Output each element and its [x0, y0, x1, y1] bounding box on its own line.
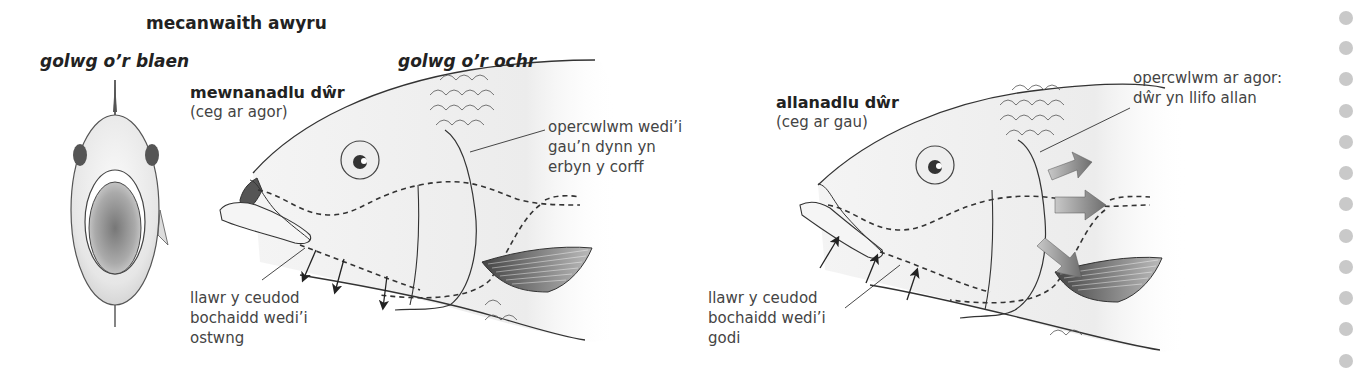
side-dots-column — [1337, 0, 1357, 377]
inhale-subheading: (ceg ar agor) — [190, 103, 288, 121]
side-dot — [1339, 291, 1353, 305]
exhale-operculum-label: opercwlwm ar agor: dŵr yn llifo allan — [1133, 68, 1282, 108]
side-dot — [1339, 322, 1353, 336]
side-dot — [1339, 135, 1353, 149]
side-view-label: golwg o’r ochr — [398, 51, 536, 71]
exhale-subheading: (ceg ar gau) — [776, 113, 868, 131]
side-dot — [1339, 11, 1353, 25]
side-dot — [1339, 260, 1353, 274]
front-view-label: golwg o’r blaen — [40, 51, 189, 71]
side-dot — [1339, 166, 1353, 180]
side-dot — [1339, 197, 1353, 211]
side-dot — [1339, 41, 1353, 55]
inhale-floor-label: llawr y ceudod bochaidd wedi’i ostwng — [190, 288, 308, 348]
side-dot — [1339, 104, 1353, 118]
side-dot — [1339, 72, 1353, 86]
side-dot — [1339, 229, 1353, 243]
side-dot — [1339, 354, 1353, 368]
inhale-heading: mewnanadlu dŵr — [190, 83, 345, 102]
front-view-fish — [71, 80, 168, 327]
inhale-operculum-label: opercwlwm wedi’i gau’n dynn yn erbyn y c… — [548, 117, 682, 177]
exhale-heading: allanadlu dŵr — [776, 93, 899, 112]
diagram-title: mecanwaith awyru — [146, 13, 327, 33]
exhale-floor-label: llawr y ceudod bochaidd wedi’i godi — [708, 288, 826, 348]
